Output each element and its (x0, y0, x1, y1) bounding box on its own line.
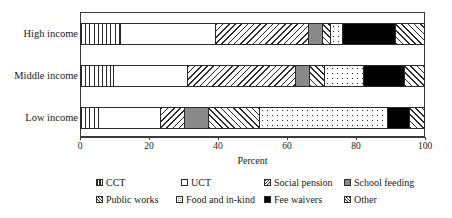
legend-swatch-food-and-in-kind-icon (176, 196, 183, 203)
bar-segment-high-income-food-and-in-kind (331, 23, 343, 45)
x-axis-tick-label-40: 40 (213, 141, 223, 152)
bar-segment-middle-income-other (405, 65, 425, 87)
legend-swatch-cct-icon (96, 179, 103, 186)
x-axis-tick-20 (149, 137, 150, 140)
bar-segment-low-income-uct (99, 107, 161, 129)
x-axis-tick-40 (218, 137, 219, 140)
legend-item-food-and-in-kind: Food and in-kind (176, 193, 255, 206)
bar-row-high-income (80, 23, 425, 45)
stacked-bar-chart: High income Middle income Low income 020… (0, 0, 452, 218)
category-label-middle-income: Middle income (4, 70, 78, 82)
bar-segment-low-income-other (410, 107, 425, 129)
x-axis-tick-100 (425, 137, 426, 140)
legend-label-school-feeding: School feeding (354, 176, 414, 189)
bar-row-middle-income (80, 65, 425, 87)
bar-segment-middle-income-uct (114, 65, 188, 87)
legend-label-public-works: Public works (106, 193, 159, 206)
legend-item-fee-waivers: Fee waivers (264, 193, 322, 206)
legend-label-fee-waivers: Fee waivers (274, 193, 322, 206)
bar-segment-high-income-fee-waivers (343, 23, 396, 45)
legend-label-uct: UCT (191, 176, 211, 189)
bar-segment-middle-income-fee-waivers (364, 65, 405, 87)
legend-label-cct: CCT (106, 176, 125, 189)
bar-segment-high-income-cct (80, 23, 121, 45)
legend-swatch-other-icon (344, 196, 351, 203)
x-axis-tick-60 (287, 137, 288, 140)
bar-segment-middle-income-food-and-in-kind (325, 65, 364, 87)
bar-segment-low-income-cct (80, 107, 99, 129)
legend-item-cct: CCT (96, 176, 125, 189)
x-axis-title: Percent (80, 155, 425, 166)
bar-segment-low-income-fee-waivers (388, 107, 410, 129)
legend-label-social-pension: Social pension (274, 176, 333, 189)
x-axis-tick-label-0: 0 (78, 141, 83, 152)
legend-row-2: Public works Food and in-kind Fee waiver… (88, 193, 448, 210)
bar-segment-low-income-school-feeding (185, 107, 209, 129)
bar-segment-middle-income-cct (80, 65, 114, 87)
legend-swatch-uct-icon (181, 179, 188, 186)
bar-row-low-income (80, 107, 425, 129)
legend-swatch-social-pension-icon (264, 179, 271, 186)
legend-item-school-feeding: School feeding (344, 176, 414, 189)
bar-segment-middle-income-school-feeding (296, 65, 310, 87)
legend-item-public-works: Public works (96, 193, 159, 206)
legend-label-food-and-in-kind: Food and in-kind (186, 193, 255, 206)
bars-layer (80, 12, 425, 137)
legend-item-uct: UCT (181, 176, 211, 189)
category-label-low-income: Low income (4, 112, 78, 124)
legend-swatch-fee-waivers-icon (264, 196, 271, 203)
legend-item-social-pension: Social pension (264, 176, 333, 189)
legend-row-1: CCT UCT Social pension School feeding (88, 176, 448, 193)
legend-label-other: Other (354, 193, 377, 206)
x-axis-tick-80 (356, 137, 357, 140)
bar-segment-high-income-school-feeding (309, 23, 323, 45)
x-axis-tick-label-100: 100 (418, 141, 432, 152)
legend-item-other: Other (344, 193, 377, 206)
x-axis-tick-0 (80, 137, 81, 140)
bar-segment-middle-income-public-works (310, 65, 325, 87)
bar-segment-low-income-social-pension (161, 107, 185, 129)
legend-swatch-public-works-icon (96, 196, 103, 203)
bar-segment-high-income-other (396, 23, 425, 45)
x-axis-tick-label-60: 60 (282, 141, 292, 152)
bar-segment-high-income-uct (121, 23, 216, 45)
y-axis-category-labels: High income Middle income Low income (0, 12, 78, 137)
x-axis-line (80, 137, 425, 138)
bar-segment-high-income-social-pension (216, 23, 309, 45)
bar-segment-low-income-food-and-in-kind (260, 107, 388, 129)
x-axis-tick-label-20: 20 (144, 141, 154, 152)
bar-segment-low-income-public-works (209, 107, 260, 129)
x-axis-tick-label-80: 80 (351, 141, 361, 152)
bar-segment-middle-income-social-pension (188, 65, 296, 87)
legend-swatch-school-feeding-icon (344, 179, 351, 186)
category-label-high-income: High income (4, 28, 78, 40)
bar-segment-high-income-public-works (323, 23, 331, 45)
chart-legend: CCT UCT Social pension School feeding Pu… (88, 176, 448, 214)
